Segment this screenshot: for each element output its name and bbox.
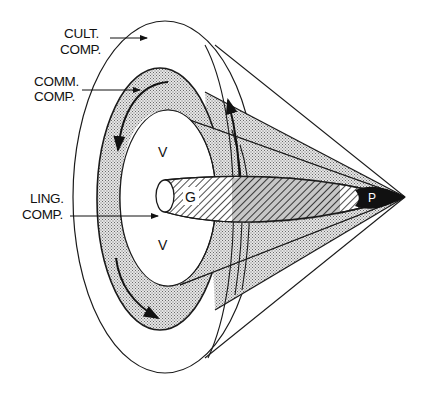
apex-p <box>355 187 405 209</box>
comm-comp-label-line1: COMM. <box>34 74 79 89</box>
g-opening <box>156 180 174 212</box>
v-bottom-label: V <box>158 237 168 253</box>
comm-comp-label-line2: COMP. <box>34 89 75 104</box>
ling-comp-label-line2: COMP. <box>22 207 63 222</box>
ling-comp-label-line1: LING. <box>30 191 64 206</box>
competence-cone-diagram: CULT. COMP. COMM. COMP. LING. COMP. V V … <box>0 0 428 393</box>
cult-comp-label-line2: COMP. <box>60 42 101 57</box>
p-label: P <box>368 191 376 205</box>
v-top-label: V <box>158 144 168 160</box>
g-label: G <box>185 189 196 205</box>
cult-comp-label-line1: CULT. <box>64 26 99 41</box>
